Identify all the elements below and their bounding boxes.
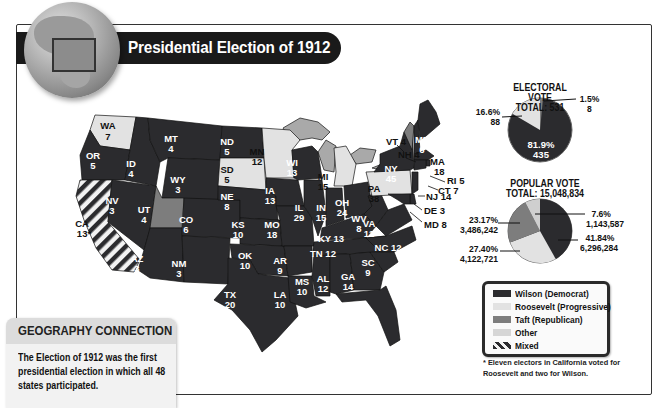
svg-text:6: 6 [183,224,188,235]
svg-text:TN 12: TN 12 [310,248,336,259]
svg-text:3: 3 [175,184,180,195]
svg-text:15: 15 [316,212,327,223]
svg-text:10: 10 [297,286,308,297]
california-footnote: * Eleven electors in California voted fo… [483,357,630,379]
svg-text:13: 13 [265,195,276,206]
geography-connection-box: GEOGRAPHY CONNECTION The Election of 191… [6,318,176,408]
svg-text:14: 14 [343,281,354,292]
geography-connection-title: GEOGRAPHY CONNECTION [18,323,172,338]
svg-text:4: 4 [141,214,147,225]
svg-text:KY 13: KY 13 [318,233,344,244]
state-MD [388,194,410,204]
map-legend: Wilson (Democrat) Roosevelt (Progressive… [482,281,610,357]
svg-text:3: 3 [134,263,139,274]
popular-roosevelt-label: 27.40% 4,122,721 [457,244,498,264]
svg-text:38: 38 [369,193,380,204]
legend-item-wilson: Wilson (Democrat) [493,287,599,299]
svg-text:4: 4 [168,143,174,154]
state-MT [148,118,222,162]
popular-vote-title: POPULAR VOTE TOTAL: 15,048,834 [503,179,587,199]
state-DE [410,194,416,204]
svg-text:20: 20 [225,299,236,310]
svg-text:9: 9 [277,265,282,276]
svg-text:5: 5 [90,160,96,171]
svg-text:5: 5 [224,174,230,185]
svg-text:8: 8 [224,201,229,212]
state-MI [334,146,356,186]
svg-text:12: 12 [364,228,375,239]
svg-text:45: 45 [386,173,397,184]
wilson-swatch-icon [493,290,511,297]
other-swatch-icon [493,329,511,336]
svg-text:13*: 13* [77,228,92,239]
state-NM [182,236,230,284]
svg-text:NC 12: NC 12 [375,242,402,253]
svg-text:6: 6 [365,320,370,331]
svg-text:VT 4: VT 4 [386,136,407,147]
svg-text:5: 5 [224,146,230,157]
svg-text:12: 12 [318,283,329,294]
legend-item-other: Other [493,326,540,338]
svg-text:15: 15 [318,181,329,192]
svg-text:10: 10 [240,260,251,271]
svg-text:18: 18 [267,229,278,240]
roosevelt-swatch-icon [493,303,511,310]
mixed-swatch-icon [493,342,511,349]
svg-text:8: 8 [356,223,361,234]
popular-other-label: 7.6% 1,143,587 [586,209,624,229]
svg-text:9: 9 [365,267,370,278]
legend-item-mixed: Mixed [493,339,542,351]
lake-michigan [318,140,336,172]
svg-text:12: 12 [252,156,263,167]
svg-text:WA: WA [100,120,115,131]
legend-item-roosevelt: Roosevelt (Progressive) [493,300,624,312]
svg-text:MD 8: MD 8 [424,219,447,230]
svg-text:18: 18 [434,166,445,177]
svg-text:24: 24 [337,207,348,218]
electoral-vote-title: ELECTORAL VOTE TOTAL: 531 [507,83,574,113]
state-NJ [412,172,418,194]
svg-text:4: 4 [128,168,134,179]
electoral-wilson-label: 81.9% 435 [525,140,557,160]
taft-swatch-icon [493,316,511,323]
svg-text:6: 6 [419,144,424,155]
svg-text:10: 10 [275,299,286,310]
svg-text:10: 10 [233,229,244,240]
svg-text:NH 4: NH 4 [398,149,420,160]
popular-vote-pie [508,199,572,263]
popular-wilson-label: 41.84% 6,296,284 [580,233,618,253]
svg-text:NJ 14: NJ 14 [426,191,452,202]
legend-item-taft: Taft (Republican) [493,313,592,325]
state-AR [284,246,312,276]
svg-text:3: 3 [109,205,114,216]
svg-text:13: 13 [287,167,298,178]
electoral-taft-label: 1.5% 8 [576,94,603,114]
svg-text:29: 29 [294,212,305,223]
svg-text:3: 3 [176,268,181,279]
popular-taft-label: 23.17% 3,486,242 [457,215,498,235]
svg-text:7: 7 [105,131,110,142]
geography-connection-body: The Election of 1912 was the first presi… [18,351,172,393]
svg-text:DE 3: DE 3 [424,205,445,216]
electoral-roosevelt-label: 16.6% 88 [471,107,500,127]
